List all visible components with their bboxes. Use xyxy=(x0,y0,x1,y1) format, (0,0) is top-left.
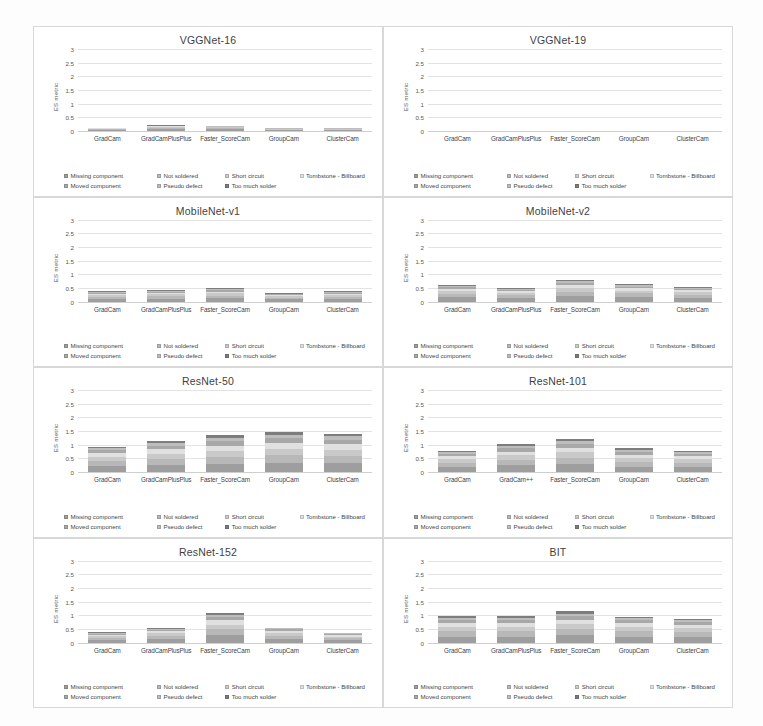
legend-item[interactable]: Tombstone - Billboard xyxy=(650,682,724,692)
bar-segment xyxy=(324,456,362,463)
legend-item[interactable]: Short circuit xyxy=(575,682,649,692)
legend-item[interactable]: Pseudo defect xyxy=(507,181,575,191)
stacked-bar[interactable] xyxy=(265,128,303,131)
legend-item[interactable]: Tombstone - Billboard xyxy=(650,171,724,181)
stacked-bar[interactable] xyxy=(497,288,535,302)
legend-item[interactable]: Short circuit xyxy=(225,171,299,181)
stacked-bar[interactable] xyxy=(88,447,126,472)
stacked-bar[interactable] xyxy=(556,611,594,642)
stacked-bar[interactable] xyxy=(265,432,303,472)
legend-item[interactable]: Too much solder xyxy=(225,522,299,532)
legend-item[interactable]: Moved component xyxy=(64,351,157,361)
legend-item[interactable]: Tombstone - Billboard xyxy=(650,341,724,351)
stacked-bar[interactable] xyxy=(615,284,653,302)
legend-item[interactable]: Short circuit xyxy=(225,341,299,351)
stacked-bar[interactable] xyxy=(438,616,476,643)
stacked-bar[interactable] xyxy=(615,448,653,472)
stacked-bar[interactable] xyxy=(556,439,594,472)
legend-item[interactable]: Short circuit xyxy=(575,341,649,351)
legend-item[interactable]: Short circuit xyxy=(575,512,649,522)
legend-item[interactable]: Pseudo defect xyxy=(157,351,225,361)
chart-panel: MobileNet-v1ES metric00.511.522.53GradCa… xyxy=(33,197,383,368)
stacked-bar[interactable] xyxy=(438,451,476,472)
legend-item[interactable]: Pseudo defect xyxy=(507,522,575,532)
stacked-bar[interactable] xyxy=(206,126,244,131)
stacked-bar[interactable] xyxy=(147,441,185,472)
stacked-bar[interactable] xyxy=(674,286,712,301)
stacked-bar[interactable] xyxy=(556,280,594,302)
stacked-bar[interactable] xyxy=(265,293,303,301)
legend-item[interactable]: Not soldered xyxy=(157,682,225,692)
legend-item[interactable]: Too much solder xyxy=(575,522,649,532)
stacked-bar[interactable] xyxy=(206,288,244,301)
legend-item[interactable]: Moved component xyxy=(414,522,507,532)
legend-item[interactable]: Missing component xyxy=(64,171,157,181)
stacked-bar[interactable] xyxy=(324,633,362,643)
legend-item[interactable]: Not soldered xyxy=(507,341,575,351)
stacked-bar[interactable] xyxy=(674,451,712,472)
legend-item[interactable]: Tombstone - Billboard xyxy=(300,682,374,692)
bar-segment xyxy=(556,464,594,472)
legend-item[interactable]: Not soldered xyxy=(507,171,575,181)
legend-item[interactable]: Too much solder xyxy=(225,692,299,702)
stacked-bar[interactable] xyxy=(497,444,535,472)
legend-item[interactable]: Too much solder xyxy=(575,181,649,191)
legend-item[interactable]: Missing component xyxy=(414,512,507,522)
legend-item[interactable]: Not soldered xyxy=(157,341,225,351)
legend-item[interactable]: Too much solder xyxy=(575,351,649,361)
stacked-bar[interactable] xyxy=(265,627,303,642)
stacked-bar[interactable] xyxy=(147,627,185,642)
legend-item[interactable]: Pseudo defect xyxy=(157,181,225,191)
legend-item[interactable]: Too much solder xyxy=(575,692,649,702)
legend-item[interactable]: Moved component xyxy=(414,351,507,361)
legend-item[interactable]: Missing component xyxy=(64,512,157,522)
stacked-bar[interactable] xyxy=(438,285,476,301)
stacked-bar[interactable] xyxy=(147,125,185,131)
legend-item[interactable]: Missing component xyxy=(414,171,507,181)
legend-item[interactable]: Not soldered xyxy=(507,512,575,522)
legend-label: Too much solder xyxy=(582,351,627,361)
legend-item[interactable]: Missing component xyxy=(414,341,507,351)
legend-item[interactable]: Too much solder xyxy=(225,351,299,361)
legend-item[interactable]: Moved component xyxy=(414,692,507,702)
legend-item[interactable]: Not soldered xyxy=(507,682,575,692)
stacked-bar[interactable] xyxy=(206,435,244,472)
legend-item[interactable]: Moved component xyxy=(64,181,157,191)
legend-item[interactable]: Missing component xyxy=(64,341,157,351)
legend-item[interactable]: Pseudo defect xyxy=(507,351,575,361)
stacked-bar[interactable] xyxy=(88,127,126,131)
stacked-bar[interactable] xyxy=(88,291,126,301)
legend-item[interactable]: Missing component xyxy=(414,682,507,692)
legend-item[interactable]: Pseudo defect xyxy=(157,692,225,702)
bar-slot xyxy=(604,49,663,131)
x-axis-tick: GradCamPlusPlus xyxy=(487,132,546,145)
legend-item[interactable]: Too much solder xyxy=(225,181,299,191)
legend-item[interactable]: Pseudo defect xyxy=(507,692,575,702)
x-axis-tick: ClusterCam xyxy=(663,473,722,486)
legend-item[interactable]: Short circuit xyxy=(225,512,299,522)
legend-item[interactable]: Missing component xyxy=(64,682,157,692)
legend-item[interactable]: Moved component xyxy=(414,181,507,191)
legend-item[interactable]: Tombstone - Billboard xyxy=(300,512,374,522)
legend-item[interactable]: Pseudo defect xyxy=(157,522,225,532)
stacked-bar[interactable] xyxy=(615,617,653,643)
stacked-bar[interactable] xyxy=(147,290,185,301)
legend-swatch-icon xyxy=(225,685,229,689)
legend-item[interactable]: Moved component xyxy=(64,692,157,702)
stacked-bar[interactable] xyxy=(88,632,126,643)
stacked-bar[interactable] xyxy=(324,128,362,131)
legend-item[interactable]: Tombstone - Billboard xyxy=(300,171,374,181)
legend-item[interactable]: Moved component xyxy=(64,522,157,532)
legend-item[interactable]: Tombstone - Billboard xyxy=(650,512,724,522)
legend-item[interactable]: Short circuit xyxy=(225,682,299,692)
stacked-bar[interactable] xyxy=(497,616,535,643)
legend-item[interactable]: Tombstone - Billboard xyxy=(300,341,374,351)
stacked-bar[interactable] xyxy=(206,612,244,642)
stacked-bar[interactable] xyxy=(324,291,362,301)
stacked-bar[interactable] xyxy=(324,434,362,472)
legend-item[interactable]: Short circuit xyxy=(575,171,649,181)
legend-item[interactable]: Not soldered xyxy=(157,171,225,181)
legend-item[interactable]: Not soldered xyxy=(157,512,225,522)
y-axis-tick: 1.5 xyxy=(52,428,74,435)
stacked-bar[interactable] xyxy=(674,618,712,642)
